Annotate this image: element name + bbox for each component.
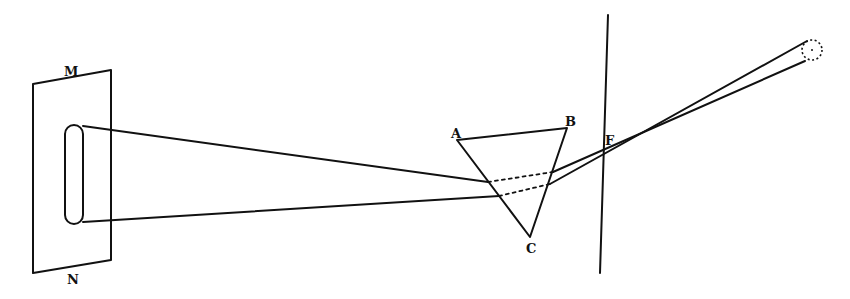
- label-n: N: [67, 272, 79, 287]
- ray-lower-to-sun: [550, 41, 807, 184]
- prism: [457, 128, 567, 237]
- label-c: C: [526, 241, 536, 256]
- label-a: A: [450, 126, 462, 141]
- sun-center: [811, 49, 813, 51]
- prism-diagram: M N A B C F: [0, 0, 850, 299]
- label-f: F: [605, 133, 615, 148]
- ray-upper-to-sun: [553, 61, 805, 172]
- spectrum-slot: [65, 125, 83, 224]
- ray-lower-in-prism: [499, 184, 550, 196]
- screen: [33, 70, 111, 273]
- ray-upper-in-prism: [488, 172, 553, 182]
- ray-lower-to-screen: [83, 196, 499, 222]
- label-b: B: [565, 114, 576, 129]
- label-m: M: [64, 64, 78, 79]
- ray-upper-to-screen: [83, 126, 488, 182]
